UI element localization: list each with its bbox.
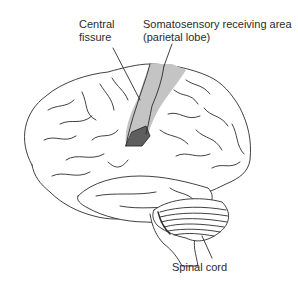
central-fissure-label: Central fissure	[79, 18, 114, 44]
brain-diagram: Central fissure Somatosensory receiving …	[0, 0, 298, 284]
somatosensory-leader	[164, 44, 172, 66]
spinal-cord-label: Spinal cord	[172, 261, 227, 274]
somatosensory-label: Somatosensory receiving area (parietal l…	[143, 18, 292, 44]
